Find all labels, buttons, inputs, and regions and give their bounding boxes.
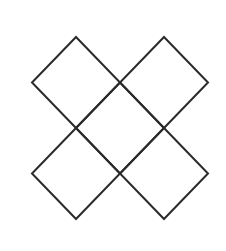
diamond-bottom-right <box>120 128 208 219</box>
diamond-top-left <box>32 37 120 128</box>
diamond-bottom-left <box>32 128 120 219</box>
diagram-canvas <box>0 0 226 251</box>
x-pattern-diagram <box>0 0 226 251</box>
diamond-group <box>32 37 208 219</box>
diamond-center <box>76 83 164 174</box>
diamond-top-right <box>120 37 208 128</box>
